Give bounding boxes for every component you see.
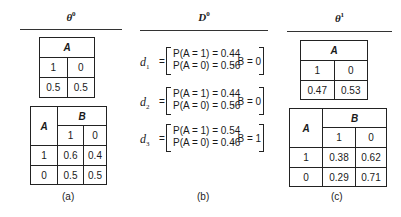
probability-lines: P(A = 1) = 0.44 P(A = 0) = 0.56 [173,48,240,72]
table-title: A [40,38,95,58]
column-header: 1 [58,126,84,146]
table-cell: 0.5 [67,78,95,98]
row-label: 0 [290,168,323,187]
equals-sign: = [159,96,165,107]
table-cell: 0.6 [58,146,84,166]
table-cell: 0.47 [301,81,335,100]
panel-a-marginal-table: A 1 0 0.5 0.5 [39,37,95,98]
column-header: 1 [301,61,335,81]
column-header: 0 [334,61,368,81]
data-point-d2: d2 = P(A = 1) = 0.44 P(A = 0) = 0.56 , B… [140,87,264,115]
data-point-d1: d1 = P(A = 1) = 0.44 P(A = 0) = 0.56 , B… [140,47,264,75]
left-bracket [166,47,171,75]
column-group-header: B [58,107,107,126]
row-label: 1 [31,146,58,166]
probability-a1: P(A = 1) = 0.54 [173,125,240,137]
panel-c-marginal-table: A 1 0 0.47 0.53 [300,40,368,100]
probability-lines: P(A = 1) = 0.54 P(A = 0) = 0.46 [173,125,240,149]
column-header: 0 [67,58,95,78]
superscript: 0 [206,10,210,18]
table-title: A [301,41,368,61]
panel-a-conditional-table: A B 1 0 1 0.6 0.4 0 0.5 0.5 [30,106,107,185]
left-bracket [166,124,171,152]
equals-sign: = [159,56,165,67]
panel-c-conditional-table: A B 1 0 1 0.38 0.62 0 0.29 0.71 [289,108,387,187]
table-cell: 0.29 [323,168,356,187]
panel-c-caption: (c) [331,191,343,202]
left-bracket [166,87,171,115]
probability-a1: P(A = 1) = 0.44 [173,88,240,100]
panel-b-header: D0 [140,10,268,23]
table-cell: 0.5 [40,78,68,98]
table-row: 1 0.38 0.62 [290,148,387,168]
panel-b-header-rule [140,30,268,31]
panel-a-caption: (a) [62,191,74,202]
row-header: A [31,107,58,146]
column-header: 0 [84,126,107,146]
probability-lines: P(A = 1) = 0.44 P(A = 0) = 0.56 [173,88,240,112]
table-cell: 0.38 [323,148,356,168]
data-point-d3: d3 = P(A = 1) = 0.54 P(A = 0) = 0.46 , B… [140,124,264,152]
column-group-header: B [323,109,387,128]
b-value: , B = 0 [232,56,261,67]
row-label: 1 [290,148,323,168]
table-cell: 0.4 [84,146,107,166]
table-cell: 0.5 [84,166,107,185]
probability-a0: P(A = 0) = 0.56 [173,100,240,112]
probability-a0: P(A = 0) = 0.46 [173,137,240,149]
data-point-label: d1 [140,55,150,71]
superscript: 1 [341,11,345,19]
panel-b-caption: (b) [197,191,209,202]
b-value: , B = 1 [232,133,261,144]
panel-a-header-rule [20,29,122,30]
table-cell: 0.53 [334,81,368,100]
table-row: 0 0.5 0.5 [31,166,107,185]
table-cell: 0.5 [58,166,84,185]
panel-c-header: θ1 [287,11,392,24]
right-bracket [259,124,264,152]
data-point-label: d3 [140,132,150,148]
column-header: 0 [356,128,387,148]
table-cell: 0.62 [356,148,387,168]
table-row: 1 0.6 0.4 [31,146,107,166]
column-header: 1 [323,128,356,148]
probability-a0: P(A = 0) = 0.56 [173,60,240,72]
row-header: A [290,109,323,148]
row-label: 0 [31,166,58,185]
table-row: 0 0.29 0.71 [290,168,387,187]
probability-a1: P(A = 1) = 0.44 [173,48,240,60]
right-bracket [259,87,264,115]
data-point-label: d2 [140,95,150,111]
panel-a-header: θ0 [20,10,122,23]
panel-c-header-rule [287,31,392,32]
table-cell: 0.71 [356,168,387,187]
right-bracket [259,47,264,75]
equals-sign: = [159,133,165,144]
column-header: 1 [40,58,68,78]
superscript: 0 [72,10,76,18]
b-value: , B = 0 [232,96,261,107]
